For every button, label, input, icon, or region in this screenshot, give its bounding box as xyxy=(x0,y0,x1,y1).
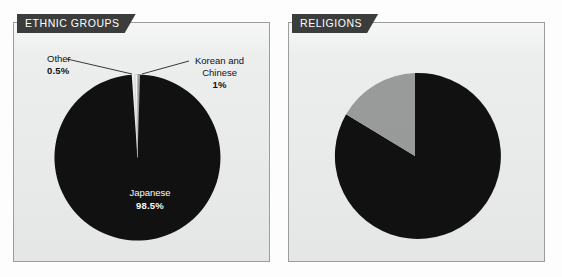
tab-ethnic-groups[interactable]: ETHNIC GROUPS xyxy=(17,14,136,33)
pie-chart-religions-svg xyxy=(289,23,546,263)
leader-line-korean-chinese xyxy=(142,61,189,74)
callout-other-ethnic: Other 0.5% xyxy=(47,53,71,77)
tab-ethnic-groups-label: ETHNIC GROUPS xyxy=(25,17,120,29)
callout-korean-chinese: Korean and Chinese 1% xyxy=(195,55,244,91)
figure-root: Other 0.5% Korean and Chinese 1% Japanes… xyxy=(0,0,562,277)
callout-other-value: 0.5% xyxy=(47,65,71,77)
pie-chart-ethnic-groups: Other 0.5% Korean and Chinese 1% Japanes… xyxy=(14,23,269,261)
leader-line-other xyxy=(67,59,132,74)
slice-label-japanese-value: 98.5% xyxy=(100,200,200,213)
tab-religions-label: RELIGIONS xyxy=(300,17,362,29)
callout-korean-value: 1% xyxy=(195,79,244,91)
callout-other-label: Other xyxy=(47,53,71,65)
callout-korean-label-line2: Chinese xyxy=(195,67,244,79)
panel-religions: Other 16% Shinto and Buddhist 84% xyxy=(288,22,545,262)
slice-label-japanese: Japanese 98.5% xyxy=(100,187,200,212)
slice-label-japanese-name: Japanese xyxy=(100,187,200,200)
panel-ethnic-groups: Other 0.5% Korean and Chinese 1% Japanes… xyxy=(13,22,270,262)
callout-korean-label-line1: Korean and xyxy=(195,55,244,67)
pie-chart-religions: Other 16% Shinto and Buddhist 84% xyxy=(289,23,544,261)
tab-religions[interactable]: RELIGIONS xyxy=(292,14,378,33)
